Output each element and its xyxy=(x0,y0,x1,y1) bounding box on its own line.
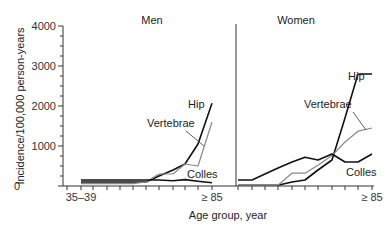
women-panel-title: Women xyxy=(277,14,315,26)
women-x-last-label: ≥ 85 xyxy=(361,191,382,203)
men-annotations: Hip Vertebrae Colles xyxy=(147,98,218,180)
men-x-first-label: 35–39 xyxy=(66,191,97,203)
women-colles-label: Colles xyxy=(346,166,377,178)
y-axis-label: Incidence/100,000 person-years xyxy=(14,27,26,185)
men-hip-label: Hip xyxy=(188,98,205,110)
y-tick-2000: 2000 xyxy=(32,100,56,112)
men-panel-title: Men xyxy=(141,14,162,26)
men-vertebrae-label: Vertebrae xyxy=(147,117,195,129)
x-axis-label: Age group, year xyxy=(189,209,268,221)
women-vertebrae-label: Vertebrae xyxy=(304,98,352,110)
y-tick-1000: 1000 xyxy=(32,140,56,152)
men-colles-label: Colles xyxy=(187,168,218,180)
y-tick-4000: 4000 xyxy=(32,20,56,32)
y-tick-3000: 3000 xyxy=(32,60,56,72)
y-axis: 4000 3000 2000 1000 0 Incidence/100,000 … xyxy=(14,20,63,192)
women-annotations: Hip Vertebrae Colles xyxy=(304,70,377,178)
men-x-last-label: ≥ 85 xyxy=(201,191,222,203)
women-hip-label: Hip xyxy=(348,70,365,82)
x-axis: 35–39 ≥ 85 ≥ 85 Age group, year xyxy=(63,186,383,221)
fracture-incidence-chart: 4000 3000 2000 1000 0 Incidence/100,000 … xyxy=(0,0,390,237)
